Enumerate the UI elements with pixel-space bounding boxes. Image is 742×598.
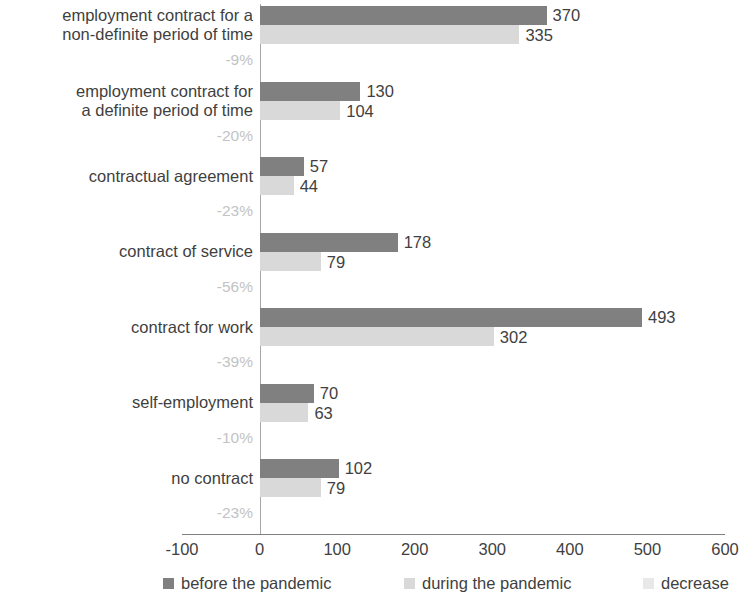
bar-during-pandemic <box>260 101 341 120</box>
category-group: employment contract for a definite perio… <box>0 82 742 158</box>
category-group: employment contract for a non-definite p… <box>0 6 742 82</box>
legend-item[interactable]: decrease <box>643 573 729 593</box>
bar-value-before-pandemic: 178 <box>404 233 432 252</box>
bar-during-pandemic <box>260 252 321 271</box>
decrease-percent-label: -20% <box>217 127 253 145</box>
bar-before-pandemic <box>260 6 547 25</box>
bar-value-during-pandemic: 104 <box>346 102 374 121</box>
bar-during-pandemic <box>260 478 321 497</box>
plot-area: employment contract for a non-definite p… <box>0 0 742 540</box>
category-label: employment contract for a definite perio… <box>76 82 253 120</box>
legend-swatch-icon <box>643 578 654 589</box>
x-axis-tick: 400 <box>556 540 584 559</box>
x-axis-tick: 100 <box>323 540 351 559</box>
legend-item[interactable]: during the pandemic <box>404 573 572 593</box>
bar-before-pandemic <box>260 157 304 176</box>
category-label: contract of service <box>119 242 253 261</box>
decrease-percent-label: -9% <box>225 51 253 69</box>
legend-label: decrease <box>661 573 729 593</box>
x-axis-tick: 0 <box>255 540 264 559</box>
bar-during-pandemic <box>260 25 520 44</box>
category-label: no contract <box>171 469 253 488</box>
category-label: self-employment <box>132 393 253 412</box>
bar-chart: employment contract for a non-definite p… <box>0 0 742 598</box>
category-group: no contract-23%10279 <box>0 459 742 535</box>
decrease-percent-label: -39% <box>217 353 253 371</box>
legend-swatch-icon <box>404 578 415 589</box>
bar-value-before-pandemic: 70 <box>320 384 338 403</box>
legend-label: before the pandemic <box>181 573 331 593</box>
bar-value-during-pandemic: 79 <box>327 253 345 272</box>
category-label: contract for work <box>131 318 253 337</box>
category-group: contractual agreement-23%5744 <box>0 157 742 233</box>
bar-value-before-pandemic: 130 <box>366 82 394 101</box>
x-axis-tick: -100 <box>165 540 198 559</box>
bar-value-before-pandemic: 493 <box>648 308 676 327</box>
bar-during-pandemic <box>260 327 494 346</box>
bar-before-pandemic <box>260 82 361 101</box>
bar-value-during-pandemic: 44 <box>300 177 318 196</box>
x-axis-tick: 300 <box>479 540 507 559</box>
category-group: contract for work-39%493302 <box>0 308 742 384</box>
bar-during-pandemic <box>260 176 294 195</box>
decrease-percent-label: -56% <box>217 278 253 296</box>
x-axis-tick: 600 <box>711 540 739 559</box>
x-axis-tick: 500 <box>634 540 662 559</box>
bar-before-pandemic <box>260 384 314 403</box>
bar-value-before-pandemic: 57 <box>310 157 328 176</box>
chart-legend: before the pandemicduring the pandemicde… <box>0 569 742 598</box>
bar-during-pandemic <box>260 403 309 422</box>
decrease-percent-label: -23% <box>217 504 253 522</box>
bar-value-during-pandemic: 335 <box>525 26 553 45</box>
bar-value-during-pandemic: 79 <box>327 479 345 498</box>
legend-label: during the pandemic <box>422 573 572 593</box>
bar-before-pandemic <box>260 459 339 478</box>
legend-item[interactable]: before the pandemic <box>163 573 331 593</box>
legend-swatch-icon <box>163 578 174 589</box>
category-group: contract of service-56%17879 <box>0 233 742 309</box>
category-group: self-employment-10%7063 <box>0 384 742 460</box>
bar-value-during-pandemic: 302 <box>500 328 528 347</box>
bar-value-during-pandemic: 63 <box>314 404 332 423</box>
x-axis-tick: 200 <box>401 540 429 559</box>
bar-value-before-pandemic: 102 <box>345 459 373 478</box>
bar-before-pandemic <box>260 308 642 327</box>
decrease-percent-label: -10% <box>217 429 253 447</box>
bar-before-pandemic <box>260 233 398 252</box>
category-label: employment contract for a non-definite p… <box>62 6 253 44</box>
category-label: contractual agreement <box>89 167 253 186</box>
decrease-percent-label: -23% <box>217 202 253 220</box>
bar-value-before-pandemic: 370 <box>553 6 581 25</box>
